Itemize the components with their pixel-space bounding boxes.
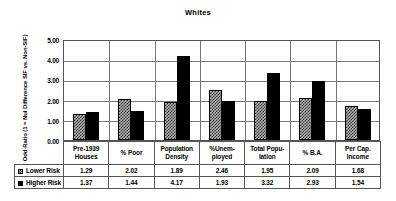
category-label-line: Per Cap. xyxy=(336,145,380,153)
bar-lower-risk[interactable] xyxy=(164,102,177,140)
table-row-lower-risk: Lower Risk1.292.021.892.461.952.091.68 xyxy=(15,165,381,177)
chart-title: Whites xyxy=(0,8,396,17)
category-label-line: Density xyxy=(155,153,199,161)
bar-lower-risk[interactable] xyxy=(299,98,312,140)
plot-area xyxy=(63,40,380,141)
legend-swatch-icon xyxy=(18,169,23,174)
bar-lower-risk[interactable] xyxy=(209,90,222,140)
table-row-higher-risk: Higher Risk1.371.444.171.933.322.931.54 xyxy=(15,177,381,189)
table-corner-cell xyxy=(15,142,64,165)
bar-group xyxy=(245,41,290,140)
table-value-cell: 1.37 xyxy=(64,177,109,189)
table-value-cell: 2.46 xyxy=(199,165,244,177)
legend-item-lower-risk[interactable]: Lower Risk xyxy=(15,165,64,177)
table-header-cell: %Unem-ployed xyxy=(199,142,244,165)
table-header-cell: Per Cap.Income xyxy=(335,142,380,165)
bar-group xyxy=(290,41,335,140)
category-label-line: % Poor xyxy=(109,149,153,157)
data-table: Pre-1939Houses% PoorPopulationDensity%Un… xyxy=(14,141,381,189)
category-label-line: % B.A. xyxy=(290,149,334,157)
table-header-cell: Pre-1939Houses xyxy=(64,142,109,165)
table-value-cell: 1.68 xyxy=(335,165,380,177)
table-value-cell: 2.09 xyxy=(290,165,335,177)
category-label-line: lation xyxy=(245,153,289,161)
category-label-line: %Unem- xyxy=(200,145,244,153)
bar-lower-risk[interactable] xyxy=(73,114,86,140)
table-value-cell: 1.29 xyxy=(64,165,109,177)
legend-label: Lower Risk xyxy=(26,167,60,174)
table-value-cell: 2.93 xyxy=(290,177,335,189)
bar-group xyxy=(336,41,381,140)
bar-lower-risk[interactable] xyxy=(345,106,358,140)
bar-higher-risk[interactable] xyxy=(131,111,144,140)
bar-group xyxy=(155,41,200,140)
bar-higher-risk[interactable] xyxy=(222,101,235,140)
category-label-line: Population xyxy=(155,145,199,153)
category-label-line: Income xyxy=(336,153,380,161)
table-value-cell: 1.54 xyxy=(335,177,380,189)
y-tick-label: 4.00 xyxy=(28,57,59,64)
y-tick-label: 3.00 xyxy=(28,77,59,84)
bar-group xyxy=(200,41,245,140)
table-value-cell: 3.32 xyxy=(245,177,290,189)
y-tick-label: 5.00 xyxy=(28,37,59,44)
bar-group xyxy=(109,41,154,140)
category-label-line: Total Popu- xyxy=(245,145,289,153)
table-value-cell: 4.17 xyxy=(154,177,199,189)
legend-swatch-icon xyxy=(18,181,23,186)
bar-higher-risk[interactable] xyxy=(86,112,99,140)
bar-lower-risk[interactable] xyxy=(118,99,131,140)
table-header-cell: PopulationDensity xyxy=(154,142,199,165)
table-value-cell: 1.93 xyxy=(199,177,244,189)
bar-lower-risk[interactable] xyxy=(254,101,267,140)
y-tick-label: 2.00 xyxy=(28,97,59,104)
category-label-line: Houses xyxy=(64,153,108,161)
category-label-line: Pre-1939 xyxy=(64,145,108,153)
category-label-line: ployed xyxy=(200,153,244,161)
table-value-cell: 1.89 xyxy=(154,165,199,177)
legend-item-higher-risk[interactable]: Higher Risk xyxy=(15,177,64,189)
table-value-cell: 1.44 xyxy=(109,177,154,189)
bar-group xyxy=(64,41,109,140)
bar-higher-risk[interactable] xyxy=(267,73,280,140)
table-row-category-headers: Pre-1939Houses% PoorPopulationDensity%Un… xyxy=(15,142,381,165)
table-header-cell: Total Popu-lation xyxy=(245,142,290,165)
bar-higher-risk[interactable] xyxy=(312,81,325,140)
legend-label: Higher Risk xyxy=(26,179,61,186)
table-header-cell: % B.A. xyxy=(290,142,335,165)
table-value-cell: 2.02 xyxy=(109,165,154,177)
table-value-cell: 1.95 xyxy=(245,165,290,177)
y-tick-label: 1.00 xyxy=(28,117,59,124)
bar-higher-risk[interactable] xyxy=(177,56,190,140)
bar-higher-risk[interactable] xyxy=(358,109,371,140)
table-header-cell: % Poor xyxy=(109,142,154,165)
